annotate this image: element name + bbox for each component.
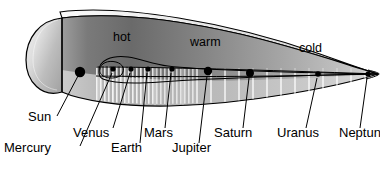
marker-jupiter	[204, 67, 212, 75]
planet-label-sun: Sun	[28, 109, 51, 124]
planet-label-venus: Venus	[73, 125, 110, 140]
planet-label-saturn: Saturn	[214, 125, 252, 140]
leader-line-neptune	[360, 78, 367, 128]
zone-label-cold: cold	[299, 41, 322, 55]
left-end-cap	[26, 18, 62, 93]
planet-label-neptune: Neptun	[339, 125, 380, 140]
marker-neptune	[365, 71, 370, 76]
zone-label-warm: warm	[189, 35, 221, 49]
marker-earth	[145, 66, 150, 71]
marker-uranus	[315, 71, 321, 77]
planet-label-jupiter: Jupiter	[172, 140, 212, 155]
marker-venus	[128, 66, 133, 71]
marker-saturn	[246, 69, 254, 77]
solar-nebula-diagram: hot warm cold Sun Mercury Venus Earth Ma…	[0, 0, 380, 178]
marker-sun	[75, 67, 85, 77]
nebula-body	[26, 10, 380, 110]
zone-label-hot: hot	[113, 30, 131, 44]
planet-labels: Sun Mercury Venus Earth Mars Jupiter Sat…	[4, 109, 380, 155]
planet-label-earth: Earth	[111, 140, 142, 155]
planet-label-uranus: Uranus	[277, 125, 319, 140]
marker-mars	[169, 66, 174, 71]
planet-label-mars: Mars	[144, 125, 173, 140]
marker-mercury	[110, 66, 115, 71]
planet-label-mercury: Mercury	[4, 140, 51, 155]
